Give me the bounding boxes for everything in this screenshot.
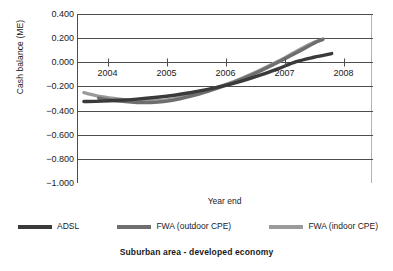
x-tick-marks [78, 14, 373, 183]
x-tick-label: 2004 [84, 69, 132, 78]
legend-swatch [18, 225, 52, 229]
y-tick-label: 0.000 [30, 58, 74, 67]
y-tick-label: 0.400 [30, 10, 74, 19]
y-tick-label: −0.600 [30, 130, 74, 139]
y-tick-label: 0.200 [30, 34, 74, 43]
y-tick-label: −0.200 [30, 82, 74, 91]
chart-legend: ADSLFWA (outdoor CPE)FWA (indoor CPE) [18, 222, 378, 231]
legend-swatch [117, 225, 151, 229]
y-tick-label: −0.800 [30, 154, 74, 163]
legend-label: FWA (outdoor CPE) [156, 222, 231, 231]
legend-label: ADSL [57, 222, 79, 231]
legend-label: FWA (indoor CPE) [308, 222, 378, 231]
x-tick-label: 2005 [143, 69, 191, 78]
x-tick-label: 2008 [320, 69, 368, 78]
chart-caption: Suburban area - developed economy [0, 247, 393, 257]
plot-area: 0.4000.2000.000−0.200−0.400−0.600−0.800−… [77, 14, 372, 183]
legend-entry: FWA (indoor CPE) [269, 222, 378, 231]
x-axis-title: Year end [77, 196, 372, 206]
y-axis-title: Cash balance (ME) [15, 0, 25, 117]
legend-swatch [269, 225, 303, 229]
legend-entry: ADSL [18, 222, 79, 231]
chart-figure: 0.4000.2000.000−0.200−0.400−0.600−0.800−… [0, 0, 393, 271]
y-tick-label: −1.000 [30, 179, 74, 188]
x-tick-label: 2006 [202, 69, 250, 78]
legend-entry: FWA (outdoor CPE) [117, 222, 231, 231]
y-tick-label: −0.400 [30, 106, 74, 115]
x-tick-label: 2007 [261, 69, 309, 78]
